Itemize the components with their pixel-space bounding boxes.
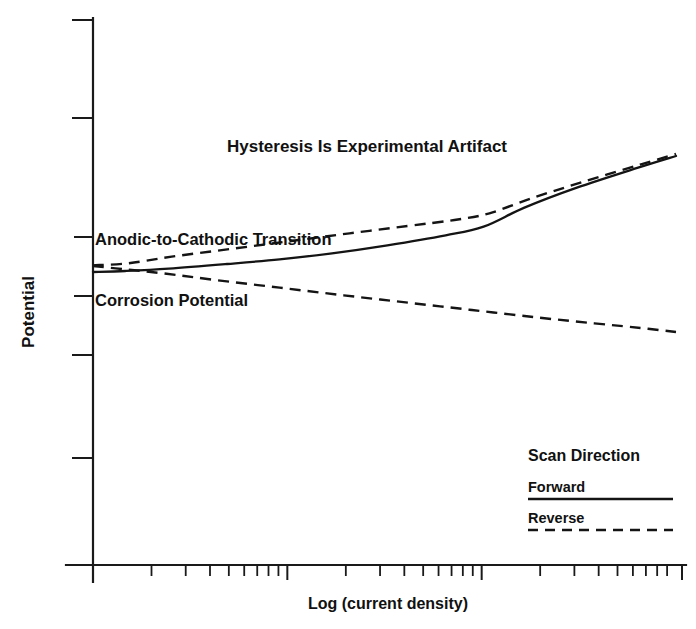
- annotation-anodic-to-cathodic-transition: Anodic-to-Cathodic Transition: [95, 230, 332, 248]
- chart-container: Hysteresis Is Experimental Artifact Anod…: [0, 0, 696, 629]
- legend-item-forward-label: Forward: [528, 479, 585, 495]
- x-axis-title: Log (current density): [308, 595, 468, 612]
- curve-forward: [93, 156, 676, 272]
- legend-heading: Scan Direction: [528, 447, 640, 464]
- curve-reverse-upper: [93, 154, 676, 265]
- chart-title: Hysteresis Is Experimental Artifact: [227, 137, 507, 156]
- x-axis-ticks: [93, 565, 682, 580]
- legend-item-reverse-label: Reverse: [528, 510, 584, 526]
- y-axis-ticks: [66, 20, 93, 565]
- y-axis-title: Potential: [19, 276, 38, 348]
- annotation-corrosion-potential: Corrosion Potential: [95, 291, 248, 309]
- legend: Scan Direction Forward Reverse: [528, 447, 673, 530]
